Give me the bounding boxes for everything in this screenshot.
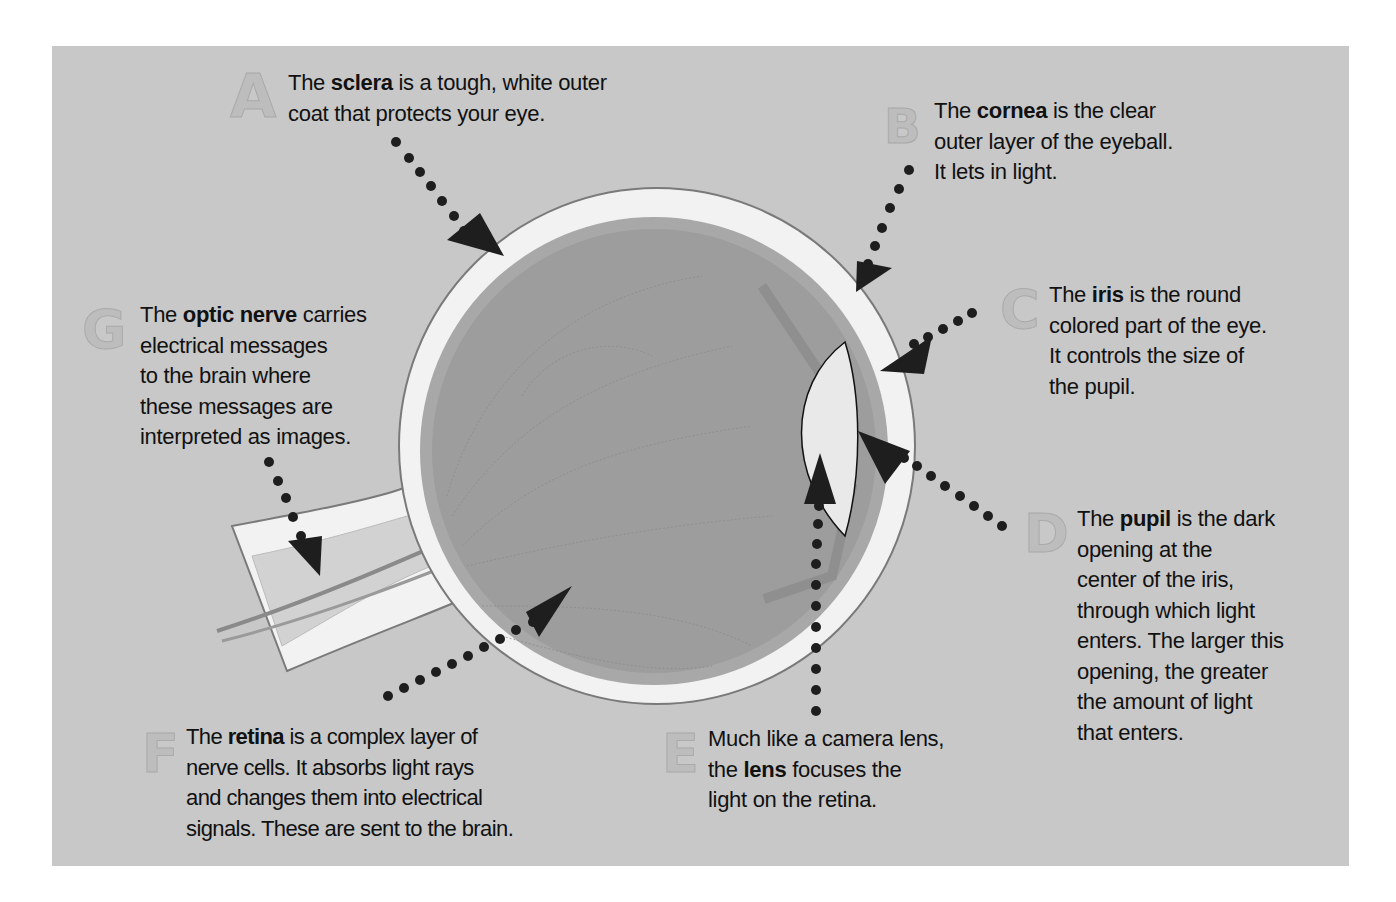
term-pupil: pupil — [1120, 506, 1171, 531]
arrow-A-sclera — [391, 137, 504, 256]
term-sclera: sclera — [331, 70, 393, 95]
callout-optic-nerve: The optic nerve carries electrical messa… — [140, 300, 367, 453]
label-letter-A: A — [230, 66, 276, 126]
callout-pupil: The pupil is the dark opening at the cen… — [1077, 504, 1284, 748]
label-letter-D: D — [1024, 504, 1069, 564]
callout-lens: Much like a camera lens, the lens focuse… — [708, 724, 944, 816]
label-letter-B: B — [884, 96, 921, 156]
arrow-B-cornea — [856, 165, 914, 292]
term-iris: iris — [1092, 282, 1124, 307]
callout-retina: The retina is a complex layer of nerve c… — [186, 722, 513, 844]
callout-sclera: The sclera is a tough, white outer coat … — [288, 68, 607, 129]
eye-anatomy-diagram: A The sclera is a tough, white outer coa… — [52, 46, 1349, 866]
term-retina: retina — [228, 724, 284, 749]
term-lens: lens — [744, 757, 787, 782]
label-letter-C: C — [1000, 280, 1040, 340]
arrow-C-iris — [880, 308, 977, 374]
label-letter-F: F — [142, 724, 179, 784]
callout-cornea: The cornea is the clear outer layer of t… — [934, 96, 1173, 188]
term-optic-nerve: optic nerve — [183, 302, 297, 327]
term-cornea: cornea — [977, 98, 1047, 123]
label-letter-E: E — [662, 724, 699, 784]
callout-iris: The iris is the round colored part of th… — [1049, 280, 1267, 402]
label-letter-G: G — [82, 300, 126, 360]
